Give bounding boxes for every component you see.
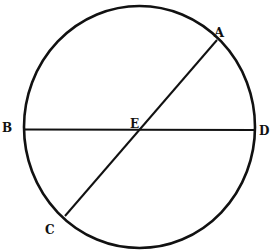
circle-diagram: A B E D C xyxy=(0,0,280,252)
diagram-svg: A B E D C xyxy=(0,0,280,252)
diameter-ac xyxy=(65,40,217,216)
point-label-c: C xyxy=(45,223,55,237)
point-label-b: B xyxy=(2,121,12,135)
point-label-e: E xyxy=(130,117,139,131)
point-label-d: D xyxy=(259,124,269,138)
point-label-a: A xyxy=(213,25,225,40)
circle xyxy=(24,6,255,248)
